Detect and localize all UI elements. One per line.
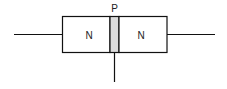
npn-transistor-diagram: N P N [0,0,227,89]
base-p-region [110,17,119,53]
p-label: P [111,3,118,14]
right-n-label: N [137,30,144,41]
left-n-label: N [85,30,92,41]
